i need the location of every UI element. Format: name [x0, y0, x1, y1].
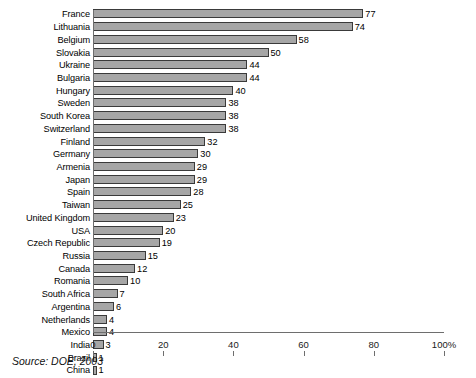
bar-track: 50	[93, 46, 476, 59]
bar	[93, 264, 135, 273]
bar-track: 25	[93, 199, 476, 212]
value-label: 20	[163, 226, 175, 236]
bar-row: Slovakia50	[0, 46, 476, 59]
x-axis-tick	[444, 351, 445, 356]
bar	[93, 213, 174, 222]
category-label: Switzerland	[44, 124, 90, 134]
bar-track: 6	[93, 301, 476, 314]
y-axis-line	[93, 10, 94, 333]
bar	[93, 289, 118, 298]
value-label: 38	[226, 98, 238, 108]
bar-row: France77	[0, 8, 476, 21]
bar-track: 44	[93, 72, 476, 85]
value-label: 44	[247, 73, 259, 83]
bar-row: Switzerland38	[0, 122, 476, 135]
bar-row: Czech Republic19	[0, 237, 476, 250]
category-label: Slovakia	[56, 48, 90, 58]
value-label: 40	[233, 86, 245, 96]
bar	[93, 251, 146, 260]
bar-track: 28	[93, 186, 476, 199]
value-label: 25	[181, 200, 193, 210]
bar-row: Netherlands4	[0, 313, 476, 326]
value-label: 12	[135, 264, 147, 274]
category-label: United Kingdom	[26, 213, 90, 223]
bar-row: Sweden38	[0, 97, 476, 110]
bar-chart-figure: France77Lithuania74Belgium58Slovakia50Uk…	[0, 0, 476, 378]
bar-track: 58	[93, 33, 476, 46]
category-label: Netherlands	[42, 315, 90, 325]
bar	[93, 238, 160, 247]
value-label: 30	[198, 149, 210, 159]
category-label: Canada	[58, 264, 90, 274]
value-label: 38	[226, 124, 238, 134]
category-label: Sweden	[57, 98, 90, 108]
value-label: 7	[118, 289, 125, 299]
bar	[93, 315, 107, 324]
bar-track: 15	[93, 250, 476, 263]
bar-track: 29	[93, 173, 476, 186]
x-axis-tick	[233, 351, 234, 356]
bar-row: USA20	[0, 224, 476, 237]
x-axis-ticks: 020406080100%	[93, 332, 444, 356]
x-axis-tick-label: 60	[298, 339, 309, 350]
bar	[93, 60, 247, 69]
category-label: Russia	[63, 251, 90, 261]
bar-track: 12	[93, 262, 476, 275]
bar	[93, 86, 233, 95]
value-label: 44	[247, 60, 259, 70]
bar-track: 38	[93, 97, 476, 110]
value-label: 58	[297, 35, 309, 45]
bar-row: South Africa7	[0, 288, 476, 301]
x-axis-tick-label: 20	[158, 339, 169, 350]
bar	[93, 22, 353, 31]
bar-track: 7	[93, 288, 476, 301]
bar-row: Ukraine44	[0, 59, 476, 72]
bar-track: 32	[93, 135, 476, 148]
bar	[93, 111, 226, 120]
bar-track: 30	[93, 148, 476, 161]
category-label: Spain	[67, 187, 90, 197]
category-label: Belgium	[58, 35, 91, 45]
bar-row: Spain28	[0, 186, 476, 199]
bar-row: United Kingdom23	[0, 212, 476, 225]
value-label: 38	[226, 111, 238, 121]
category-label: South Africa	[42, 289, 90, 299]
bar-track: 23	[93, 212, 476, 225]
bar	[93, 124, 226, 133]
source-note: Source: DOE, 2003	[12, 355, 103, 367]
value-label: 10	[128, 276, 140, 286]
x-axis-tick-label: 100%	[432, 339, 456, 350]
category-label: Germany	[53, 149, 90, 159]
bar	[93, 302, 114, 311]
bar	[93, 35, 297, 44]
x-axis-tick-label: 0	[90, 339, 95, 350]
bar-track: 77	[93, 8, 476, 21]
category-label: France	[62, 9, 90, 19]
value-label: 15	[146, 251, 158, 261]
category-label: Lithuania	[54, 22, 90, 32]
bar	[93, 48, 269, 57]
bar-row: Finland32	[0, 135, 476, 148]
value-label: 29	[195, 175, 207, 185]
category-label: South Korea	[40, 111, 90, 121]
bar-row: Taiwan25	[0, 199, 476, 212]
x-axis-tick	[304, 351, 305, 356]
category-label: India	[71, 340, 90, 350]
bar-track: 19	[93, 237, 476, 250]
bar-track: 20	[93, 224, 476, 237]
bar	[93, 175, 195, 184]
category-label: USA	[71, 226, 90, 236]
bar-track: 10	[93, 275, 476, 288]
category-label: Armenia	[56, 162, 90, 172]
bar	[93, 226, 163, 235]
bar-row: South Korea38	[0, 110, 476, 123]
bar-track: 1	[93, 364, 476, 377]
bar-row: Belgium58	[0, 33, 476, 46]
category-label: Taiwan	[62, 200, 90, 210]
value-label: 29	[195, 162, 207, 172]
bar	[93, 98, 226, 107]
x-axis-tick	[163, 351, 164, 356]
bar-track: 29	[93, 161, 476, 174]
value-label: 19	[160, 238, 172, 248]
value-label: 4	[107, 315, 114, 325]
